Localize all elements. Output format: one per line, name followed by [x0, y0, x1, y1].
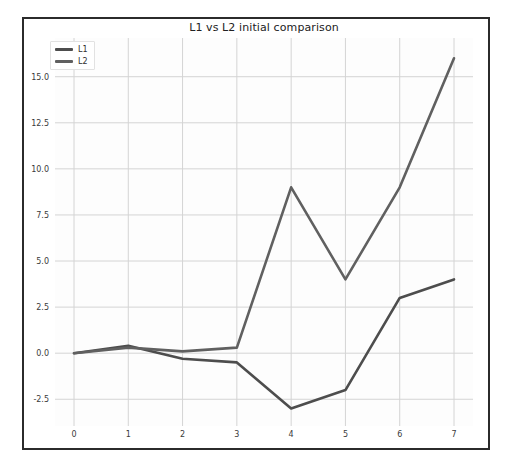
- chart-title: L1 vs L2 initial comparison: [55, 21, 473, 34]
- x-tick-label-2: 2: [180, 430, 185, 439]
- figure-canvas: L1 vs L2 initial comparison -2.50.02.55.…: [0, 0, 511, 466]
- legend-label-l1: L1: [78, 45, 88, 54]
- plot-axes: [55, 38, 473, 426]
- y-tick-label-6: 12.5: [31, 118, 49, 127]
- legend-swatch-l2-icon: [55, 60, 73, 63]
- series-line-l2: [74, 58, 454, 353]
- y-tick-label-0: -2.5: [33, 395, 49, 404]
- y-axis-tick-labels: -2.50.02.55.07.510.012.515.0: [0, 38, 49, 426]
- x-axis-tick-labels: 01234567: [55, 430, 473, 444]
- legend-label-l2: L2: [78, 57, 88, 66]
- x-tick-label-6: 6: [397, 430, 402, 439]
- x-tick-label-0: 0: [71, 430, 76, 439]
- legend-entry-l2[interactable]: L2: [55, 57, 88, 66]
- x-tick-label-4: 4: [289, 430, 294, 439]
- legend-entry-l1[interactable]: L1: [55, 45, 88, 54]
- x-tick-label-5: 5: [343, 430, 348, 439]
- y-tick-label-4: 7.5: [36, 210, 49, 219]
- y-tick-label-7: 15.0: [31, 72, 49, 81]
- series-line-l1: [74, 279, 454, 408]
- chart-legend: L1L2: [50, 41, 95, 70]
- y-tick-label-1: 0.0: [36, 349, 49, 358]
- x-tick-label-3: 3: [234, 430, 239, 439]
- x-tick-label-1: 1: [126, 430, 131, 439]
- legend-swatch-l1-icon: [55, 48, 73, 51]
- y-tick-label-2: 2.5: [36, 303, 49, 312]
- y-tick-label-5: 10.0: [31, 164, 49, 173]
- y-tick-label-3: 5.0: [36, 257, 49, 266]
- x-tick-label-7: 7: [451, 430, 456, 439]
- plot-lines: [55, 38, 473, 426]
